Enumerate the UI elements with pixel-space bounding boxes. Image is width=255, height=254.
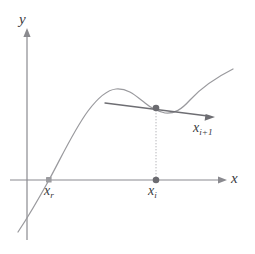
x-axis-label: x (231, 171, 238, 186)
root-point-marker (46, 177, 52, 183)
function-curve (18, 69, 233, 232)
root-point-label: xr (44, 184, 54, 200)
y-axis-arrowhead-icon (23, 28, 30, 37)
y-axis-group (23, 28, 30, 240)
y-axis-label: y (19, 12, 26, 27)
tangent-arrowhead-icon (205, 114, 215, 121)
figure-canvas (0, 0, 255, 254)
next-point-label: xi+1 (193, 121, 213, 137)
current-label-subscript: i (154, 190, 157, 200)
x-axis-group (10, 176, 227, 183)
tangent-point-marker (153, 105, 160, 112)
next-label-subscript: i+1 (199, 127, 212, 137)
root-label-subscript: r (50, 190, 54, 200)
current-point-label: xi (148, 184, 157, 200)
newton-raphson-figure: y x xr xi xi+1 (0, 0, 255, 254)
x-axis-arrowhead-icon (218, 176, 227, 183)
